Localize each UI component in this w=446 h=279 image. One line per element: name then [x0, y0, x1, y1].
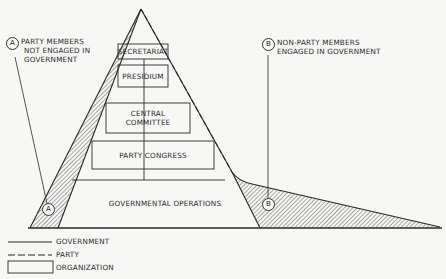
label-central-committee-line-1: CENTRAL [106, 109, 190, 118]
label-central-committee-line-2: COMMITTEE [106, 118, 190, 127]
annotation-a-label-line-1: PARTY MEMBERS [21, 37, 84, 46]
marker-b-region: B [262, 198, 275, 211]
legend-organization-label: ORGANIZATION [56, 263, 114, 272]
leader-line-a [15, 57, 48, 208]
marker-a-top: A [6, 37, 19, 50]
marker-a-region: A [42, 203, 55, 216]
label-governmental-operations: GOVERNMENTAL OPERATIONS [100, 199, 230, 208]
legend-party-label: PARTY [56, 250, 79, 259]
label-presidium: PRESIDIUM [118, 72, 168, 81]
annotation-b-label-line-1: NON-PARTY MEMBERS [277, 38, 360, 47]
label-party-congress: PARTY CONGRESS [92, 151, 214, 160]
legend-government-label: GOVERNMENT [56, 237, 109, 246]
marker-b-top: B [262, 38, 275, 51]
annotation-a-label-line-3: GOVERNMENT [24, 55, 77, 64]
annotation-b-label-line-2: ENGAGED IN GOVERNMENT [277, 47, 381, 56]
legend-box [8, 261, 53, 273]
annotation-a-label-line-2: NOT ENGAGED IN [24, 46, 90, 55]
label-secretariat: SECRETARIAT [114, 47, 172, 56]
